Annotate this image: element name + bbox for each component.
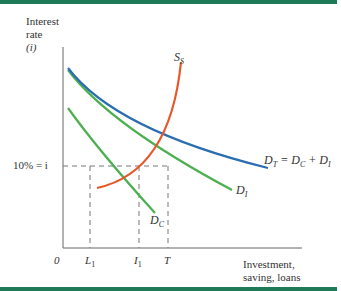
dt-curve-label: DT = DC + DI [264,153,331,169]
x-axis-label-line1: Investment, [243,258,323,271]
x-tick-l1: L1 [85,254,95,269]
y-axis-label-line1: Interest [26,15,62,28]
y-axis-label-line3: (i) [26,41,62,54]
x-tick-i1: I1 [134,254,142,269]
x-tick-t: T [164,254,170,269]
y-axis-label: Interest rate (i) [26,15,62,54]
dc-curve-label: DC [150,213,164,229]
y-axis-label-line2: rate [26,28,62,41]
rate-marker-label: 10% = i [13,159,48,171]
di-curve [68,70,232,190]
di-curve-label: DI [236,183,247,199]
ss-curve-label: SS [174,50,184,66]
origin-label: 0 [54,254,60,266]
x-axis-label-line2: saving, loans [243,271,323,284]
x-axis-label: Investment, saving, loans [243,258,323,284]
